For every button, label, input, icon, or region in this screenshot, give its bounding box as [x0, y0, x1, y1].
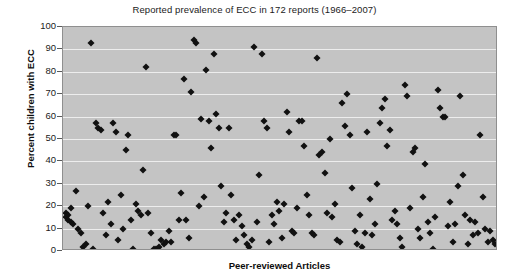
- data-point: [384, 142, 391, 149]
- data-point: [233, 236, 240, 243]
- data-point: [301, 142, 308, 149]
- data-point: [220, 218, 227, 225]
- y-tick-label: 0: [14, 244, 56, 255]
- data-point: [361, 230, 368, 237]
- data-point: [356, 212, 363, 219]
- data-point: [85, 203, 92, 210]
- data-point: [326, 135, 333, 142]
- data-point: [276, 207, 283, 214]
- gridline: [63, 206, 496, 207]
- data-point: [77, 230, 84, 237]
- data-point: [401, 82, 408, 89]
- data-point: [386, 126, 393, 133]
- data-point: [225, 124, 232, 131]
- data-point: [205, 118, 212, 125]
- data-point: [183, 216, 190, 223]
- data-point: [341, 122, 348, 129]
- data-point: [173, 131, 180, 138]
- data-point: [464, 241, 471, 248]
- data-point: [263, 124, 270, 131]
- data-point: [112, 129, 119, 136]
- data-point: [87, 39, 94, 46]
- data-point: [321, 169, 328, 176]
- data-point: [120, 225, 127, 232]
- data-point: [311, 232, 318, 239]
- data-point: [376, 120, 383, 127]
- data-point: [371, 221, 378, 228]
- data-point: [273, 198, 280, 205]
- data-point: [328, 214, 335, 221]
- data-point: [125, 131, 132, 138]
- data-point: [346, 131, 353, 138]
- data-point: [452, 221, 459, 228]
- y-tick-label: 10: [14, 222, 56, 233]
- data-point: [394, 221, 401, 228]
- data-point: [336, 238, 343, 245]
- data-point: [178, 189, 185, 196]
- data-point: [477, 131, 484, 138]
- gridline: [63, 184, 496, 185]
- data-point: [122, 147, 129, 154]
- data-point: [228, 191, 235, 198]
- gridline: [63, 117, 496, 118]
- data-point: [417, 234, 424, 241]
- data-point: [424, 218, 431, 225]
- data-point: [278, 234, 285, 241]
- data-point: [210, 50, 217, 57]
- x-axis-title: Peer-reviewed Articles: [62, 260, 497, 271]
- data-point: [258, 50, 265, 57]
- data-point: [102, 232, 109, 239]
- data-point: [427, 230, 434, 237]
- data-point: [366, 196, 373, 203]
- data-point: [240, 232, 247, 239]
- data-point: [432, 214, 439, 221]
- data-point: [349, 185, 356, 192]
- data-point: [449, 238, 456, 245]
- data-point: [246, 243, 253, 250]
- data-point: [127, 216, 134, 223]
- data-point: [130, 245, 137, 250]
- data-point: [230, 216, 237, 223]
- data-point: [429, 245, 436, 250]
- data-point: [117, 191, 124, 198]
- y-tick-mark: [57, 250, 62, 251]
- data-point: [105, 198, 112, 205]
- data-point: [100, 209, 107, 216]
- data-point: [391, 207, 398, 214]
- data-point: [406, 205, 413, 212]
- data-point: [256, 171, 263, 178]
- data-point: [142, 64, 149, 71]
- data-point: [266, 238, 273, 245]
- data-point: [291, 230, 298, 237]
- data-point: [195, 203, 202, 210]
- data-point: [185, 234, 192, 241]
- data-point: [72, 187, 79, 194]
- plot-area: [62, 26, 497, 250]
- data-point: [369, 232, 376, 239]
- data-point: [110, 120, 117, 127]
- data-point: [235, 212, 242, 219]
- chart-title: Reported prevalence of ECC in 172 report…: [0, 4, 509, 15]
- data-point: [180, 75, 187, 82]
- data-point: [381, 95, 388, 102]
- data-point: [145, 209, 152, 216]
- data-point: [147, 230, 154, 237]
- scatter-chart: Reported prevalence of ECC in 172 report…: [0, 0, 509, 279]
- data-point: [193, 39, 200, 46]
- data-point: [293, 205, 300, 212]
- data-point: [414, 225, 421, 232]
- gridline: [63, 72, 496, 73]
- data-point: [379, 104, 386, 111]
- data-point: [434, 86, 441, 93]
- data-point: [208, 144, 215, 151]
- data-point: [168, 238, 175, 245]
- data-point: [268, 212, 275, 219]
- data-point: [472, 218, 479, 225]
- gridline: [63, 139, 496, 140]
- data-point: [437, 104, 444, 111]
- data-point: [339, 100, 346, 107]
- data-point: [303, 191, 310, 198]
- data-point: [364, 129, 371, 136]
- data-point: [396, 234, 403, 241]
- gridline: [63, 49, 496, 50]
